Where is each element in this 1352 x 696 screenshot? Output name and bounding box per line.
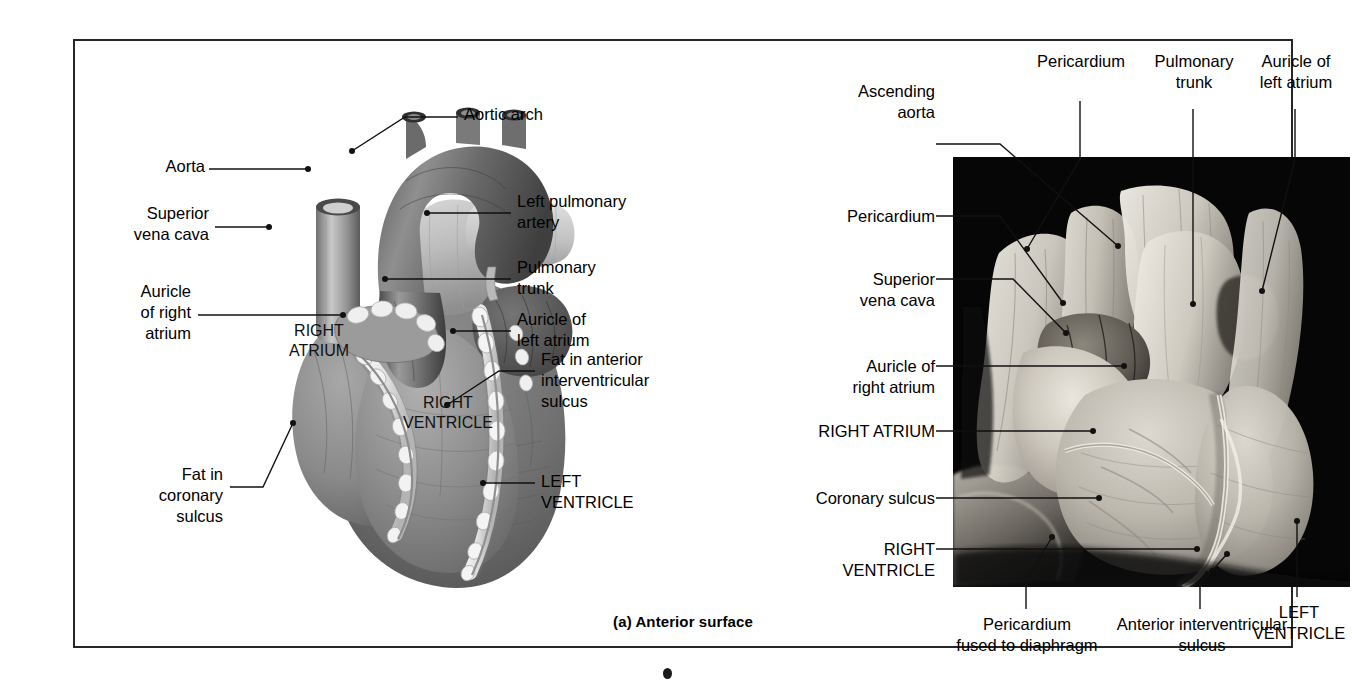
photograph-label-auricle-of-left-atrium: Auricle of left atrium (1241, 51, 1351, 93)
illustration-label-aorta: Aorta (85, 156, 205, 177)
photograph-label-auricle-of-right-atrium: Auricle of right atrium (775, 356, 935, 398)
illustration-label-auricle-of-right-atrium: Auricle of right atrium (75, 281, 191, 344)
photograph-label-coronary-sulcus: Coronary sulcus (765, 488, 935, 509)
photograph-label-pulmonary-trunk: Pulmonary trunk (1139, 51, 1249, 93)
photograph-label-ascending-aorta: Ascending aorta (795, 81, 935, 123)
illustration-label-fat-in-coronary-sulcus: Fat in coronary sulcus (75, 464, 223, 527)
illustration-label-pulmonary-trunk: Pulmonary trunk (517, 257, 596, 299)
photograph-label-right-atrium: RIGHT ATRIUM (765, 421, 935, 442)
heart-photograph (953, 157, 1350, 587)
illustration-inlabel-right-atrium: RIGHT ATRIUM (271, 321, 367, 361)
photograph-label-pericardium-top: Pericardium (1013, 51, 1149, 72)
figure-caption: (a) Anterior surface (75, 613, 1291, 630)
illustration-label-auricle-of-left-atrium: Auricle of left atrium (517, 309, 589, 351)
illustration-label-fat-in-anterior-interventricular-sulcus: Fat in anterior interventricular sulcus (541, 349, 649, 412)
illustration-label-left-pulmonary-artery: Left pulmonary artery (517, 191, 626, 233)
figure-root: RIGHT ATRIUM RIGHT VENTRICLE (0, 0, 1352, 696)
photograph-label-right-ventricle: RIGHT VENTRICLE (775, 539, 935, 581)
photograph-label-superior-vena-cava: Superior vena cava (795, 269, 935, 311)
photograph-label-pericardium-left: Pericardium (795, 206, 935, 227)
print-artifact-dot (663, 668, 672, 679)
figure-frame: RIGHT ATRIUM RIGHT VENTRICLE (73, 39, 1293, 648)
illustration-label-aortic-arch: Aortic arch (464, 104, 543, 125)
illustration-inlabel-right-ventricle: RIGHT VENTRICLE (393, 393, 503, 433)
illustration-label-superior-vena-cava: Superior vena cava (75, 203, 209, 245)
illustration-label-left-ventricle: LEFT VENTRICLE (541, 471, 634, 513)
